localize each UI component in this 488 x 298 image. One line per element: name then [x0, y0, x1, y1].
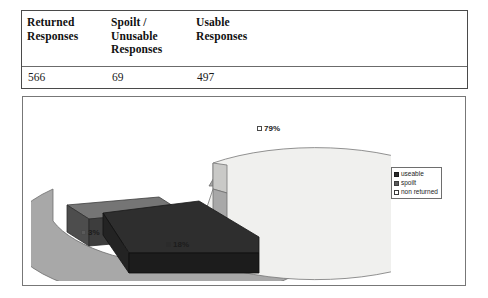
legend-label-spoilt: spoilt: [401, 179, 416, 187]
table-row: 566 69 497: [22, 67, 467, 89]
pie-data-label-text-non-returned: 79%: [264, 124, 280, 133]
pie-data-label-useable: 18%: [166, 240, 189, 249]
table-header-returned-responses: ReturnedResponses: [27, 16, 109, 43]
pie-data-label-swatch-non-returned: [257, 126, 262, 131]
legend-swatch-useable: [394, 172, 399, 177]
table-cell-returned-responses: 566: [28, 70, 45, 84]
table-cell-spoilt-unusable-responses: 69: [112, 70, 124, 84]
table-header-usable-responses: UsableResponses: [196, 16, 306, 43]
pie-data-label-text-useable: 18%: [173, 240, 189, 249]
legend-item-non-returned: non returned: [394, 188, 438, 196]
table-header-row: ReturnedResponses Spoilt /UnusableRespon…: [22, 11, 467, 67]
legend-item-spoilt: spoilt: [394, 179, 438, 187]
pie-slice-useable-side-front: [129, 253, 259, 273]
table-header-spoilt-unusable-responses: Spoilt /UnusableResponses: [111, 16, 193, 57]
pie-data-label-spoilt: 3%: [81, 228, 100, 237]
legend-item-useable: useable: [394, 170, 438, 178]
chart-figure-container: 79% 18% 3% useable spoilt non returned: [22, 96, 466, 286]
pie-data-label-swatch-spoilt: [81, 230, 86, 235]
pie-slice-non-returned-notch: [213, 163, 227, 193]
legend-label-useable: useable: [401, 170, 424, 178]
legend-swatch-non-returned: [394, 190, 399, 195]
pie-chart: 79% 18% 3% useable spoilt non returned: [23, 97, 465, 285]
legend-swatch-spoilt: [394, 181, 399, 186]
pie-data-label-non-returned: 79%: [257, 124, 280, 133]
response-summary-table: ReturnedResponses Spoilt /UnusableRespon…: [21, 10, 468, 89]
pie-chart-graphic: [31, 101, 391, 281]
table-cell-usable-responses: 497: [197, 70, 214, 84]
pie-data-label-swatch-useable: [166, 242, 171, 247]
pie-data-label-text-spoilt: 3%: [88, 228, 100, 237]
chart-legend: useable spoilt non returned: [391, 167, 442, 199]
legend-label-non-returned: non returned: [401, 188, 438, 196]
